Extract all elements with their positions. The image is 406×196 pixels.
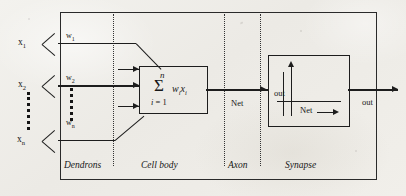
weight-label-w2: w2 bbox=[66, 74, 75, 84]
input-line-n bbox=[58, 140, 115, 141]
weight-label-w1: w1 bbox=[66, 32, 75, 42]
region-label-axon: Axon bbox=[228, 161, 248, 171]
dendron-branch-lower bbox=[42, 141, 56, 153]
arrowhead-plot-y-axis bbox=[288, 61, 294, 67]
sigma-icon: Σ bbox=[154, 77, 164, 94]
dendron-branch-lower bbox=[42, 86, 56, 98]
dendron-branch-lower bbox=[42, 44, 56, 56]
arrowhead-axon bbox=[260, 86, 266, 92]
input-label-x1: x1 bbox=[18, 38, 26, 49]
plot-x-axis bbox=[277, 101, 341, 102]
synapse-box: out Net bbox=[268, 55, 350, 127]
weight-ellipsis bbox=[70, 88, 73, 121]
summation-expression: n Σ wixi i = 1 bbox=[140, 67, 207, 113]
summation-term: wixi bbox=[172, 83, 187, 96]
region-label-cell-body: Cell body bbox=[141, 161, 178, 171]
summation-lower-limit: i = 1 bbox=[151, 97, 167, 107]
input-line-1 bbox=[58, 43, 114, 44]
output-label: out bbox=[362, 98, 373, 107]
axon-line bbox=[206, 89, 268, 91]
input-label-xn: xn bbox=[17, 135, 25, 146]
input-line-2 bbox=[58, 85, 139, 87]
axon-signal-label: Net bbox=[231, 99, 243, 108]
plot-y-axis bbox=[291, 66, 292, 116]
arrowhead-plot-x-axis bbox=[333, 109, 339, 115]
plot-x-axis-label: Net bbox=[300, 106, 312, 115]
plot-y-axis-label: out bbox=[274, 89, 285, 98]
output-line bbox=[348, 89, 398, 91]
input-label-x2: x2 bbox=[18, 80, 26, 91]
region-label-dendrons: Dendrons bbox=[64, 161, 101, 171]
arrowhead-output bbox=[392, 86, 398, 92]
paper-speck bbox=[28, 18, 30, 20]
input-ellipsis bbox=[27, 92, 30, 130]
dendron-branch-upper bbox=[42, 130, 56, 142]
divider-dendrons-cellbody bbox=[113, 14, 114, 166]
input-line-1-run bbox=[113, 43, 136, 44]
summation-box: n Σ wixi i = 1 bbox=[139, 66, 208, 114]
dendron-branch-upper bbox=[42, 75, 56, 87]
dendron-branch-upper bbox=[42, 33, 56, 45]
region-label-synapse: Synapse bbox=[285, 161, 316, 171]
